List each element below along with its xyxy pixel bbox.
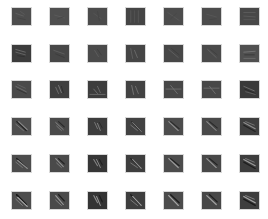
filter-tile [49, 44, 70, 63]
filter-tile [201, 80, 222, 99]
filter-pattern [126, 8, 145, 25]
filter-tile [87, 80, 108, 99]
filter-tile [201, 117, 222, 136]
filter-tile [11, 154, 32, 173]
filter-pattern [126, 118, 145, 135]
filter-pattern [240, 155, 259, 172]
filter-pattern [202, 118, 221, 135]
filter-tile [11, 80, 32, 99]
filter-pattern [202, 45, 221, 62]
filter-tile [49, 7, 70, 26]
filter-pattern [50, 8, 69, 25]
filter-pattern [202, 81, 221, 98]
filter-pattern [88, 118, 107, 135]
filter-pattern [240, 8, 259, 25]
filter-tile [163, 44, 184, 63]
filter-pattern [164, 192, 183, 209]
filter-tile [163, 7, 184, 26]
filter-tile [125, 117, 146, 136]
filter-tile [125, 80, 146, 99]
filter-pattern [164, 45, 183, 62]
filter-pattern [164, 81, 183, 98]
filter-tile [125, 7, 146, 26]
filter-tile [49, 154, 70, 173]
filter-tile [163, 191, 184, 210]
filter-tile [239, 117, 260, 136]
filter-pattern [240, 45, 259, 62]
filter-pattern [126, 45, 145, 62]
filter-pattern [88, 45, 107, 62]
filter-pattern [12, 118, 31, 135]
filter-tile [163, 117, 184, 136]
filter-pattern [12, 45, 31, 62]
filter-tile [201, 154, 222, 173]
filter-tile [49, 80, 70, 99]
filter-pattern [88, 155, 107, 172]
filter-tile [201, 7, 222, 26]
filter-tile [125, 191, 146, 210]
filter-pattern [50, 81, 69, 98]
filter-tile [239, 7, 260, 26]
filter-pattern [12, 192, 31, 209]
filter-tile [11, 44, 32, 63]
filter-pattern [164, 155, 183, 172]
filter-tile [239, 191, 260, 210]
filter-tile [11, 7, 32, 26]
filter-grid [0, 0, 268, 219]
filter-tile [11, 191, 32, 210]
filter-pattern [126, 155, 145, 172]
filter-tile [201, 44, 222, 63]
filter-pattern [12, 155, 31, 172]
filter-tile [163, 154, 184, 173]
filter-tile [11, 117, 32, 136]
filter-tile [87, 44, 108, 63]
filter-pattern [50, 45, 69, 62]
filter-pattern [240, 192, 259, 209]
filter-pattern [50, 192, 69, 209]
filter-pattern [164, 118, 183, 135]
filter-tile [239, 44, 260, 63]
filter-pattern [12, 8, 31, 25]
filter-pattern [126, 192, 145, 209]
filter-pattern [88, 192, 107, 209]
filter-pattern [88, 81, 107, 98]
filter-pattern [126, 81, 145, 98]
filter-pattern [202, 192, 221, 209]
filter-pattern [50, 155, 69, 172]
filter-tile [87, 191, 108, 210]
filter-pattern [12, 81, 31, 98]
filter-tile [87, 154, 108, 173]
filter-pattern [240, 118, 259, 135]
filter-tile [87, 117, 108, 136]
filter-tile [239, 154, 260, 173]
filter-tile [201, 191, 222, 210]
filter-pattern [50, 118, 69, 135]
filter-pattern [88, 8, 107, 25]
filter-tile [239, 80, 260, 99]
filter-tile [49, 191, 70, 210]
filter-tile [125, 44, 146, 63]
filter-pattern [240, 81, 259, 98]
filter-pattern [202, 8, 221, 25]
filter-tile [163, 80, 184, 99]
filter-tile [87, 7, 108, 26]
filter-pattern [202, 155, 221, 172]
filter-pattern [164, 8, 183, 25]
filter-tile [49, 117, 70, 136]
filter-tile [125, 154, 146, 173]
